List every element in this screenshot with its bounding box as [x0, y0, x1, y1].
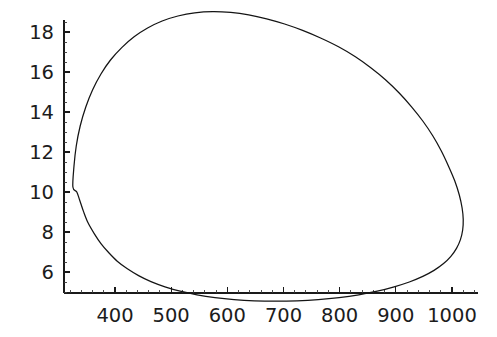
y-tick-label: 8: [42, 221, 54, 244]
x-axis-ticks: [70, 287, 474, 293]
x-tick-label: 800: [321, 304, 358, 327]
y-tick-label: 18: [29, 21, 54, 44]
chart-figure: 681012141618 4005006007008009001000: [0, 0, 497, 337]
closed-loop-curve: [73, 12, 463, 302]
x-tick-label: 1000: [427, 304, 477, 327]
x-tick-label: 900: [377, 304, 414, 327]
x-tick-label: 700: [265, 304, 302, 327]
y-tick-label: 14: [29, 101, 54, 124]
y-tick-label: 12: [29, 141, 54, 164]
x-tick-label: 500: [153, 304, 190, 327]
y-tick-label: 16: [29, 61, 54, 84]
axes-group: [64, 20, 478, 293]
y-axis-ticklabels: 681012141618: [29, 21, 54, 284]
data-series-group: [73, 12, 463, 302]
x-tick-label: 400: [96, 304, 133, 327]
y-tick-label: 10: [29, 181, 54, 204]
y-axis-ticks: [64, 22, 70, 292]
plot-canvas: 681012141618 4005006007008009001000: [0, 0, 497, 337]
x-axis-ticklabels: 4005006007008009001000: [96, 304, 476, 327]
x-tick-label: 600: [209, 304, 246, 327]
y-tick-label: 6: [42, 261, 54, 284]
